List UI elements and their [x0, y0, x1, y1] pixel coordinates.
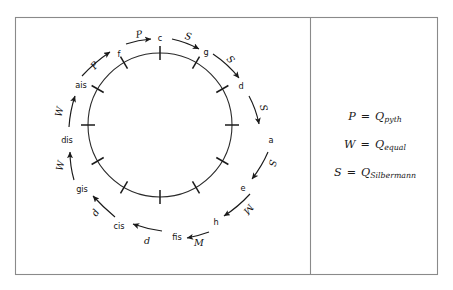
note-label-d: d — [238, 81, 243, 91]
temperament-circle-figure: c g d a e h fis cis gis dis ais f — [0, 0, 453, 290]
legend-eq-1: = — [361, 138, 370, 151]
interval-label-h-fis: M — [193, 237, 205, 248]
legend-q-0: Q — [375, 110, 384, 123]
note-label-c: c — [158, 33, 163, 43]
legend-q-2: Q — [361, 166, 370, 179]
legend-symbol-P: P — [347, 110, 356, 123]
legend-symbol-S: S — [334, 166, 342, 179]
note-label-g: g — [203, 47, 208, 57]
note-label-cis: cis — [113, 221, 124, 231]
legend-eq-2: = — [347, 166, 356, 179]
legend-sub-equal: equal — [384, 143, 406, 152]
note-label-ais: ais — [75, 80, 87, 90]
note-label-dis: dis — [61, 135, 73, 145]
interval-label-fis-cis: d — [144, 235, 150, 246]
legend-sub-pyth: pyth — [384, 115, 402, 124]
note-label-fis: fis — [172, 232, 181, 242]
note-label-e: e — [240, 183, 245, 193]
legend-sub-silbermann: Silbermann — [370, 171, 416, 180]
legend-q-1: Q — [375, 138, 384, 151]
note-label-gis: gis — [76, 184, 88, 194]
note-label-a: a — [268, 135, 273, 145]
note-label-h: h — [213, 217, 218, 227]
legend-eq-0: = — [361, 110, 370, 123]
legend-symbol-W: W — [344, 138, 357, 151]
